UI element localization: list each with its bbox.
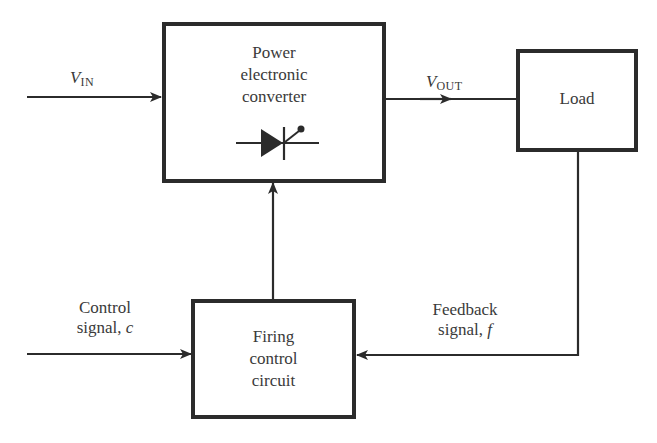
control-signal-var: c (126, 318, 134, 337)
converter-label: Power electronic converter (164, 42, 384, 108)
vout-label: VOUT (426, 72, 463, 96)
control-signal-label: Control signal, c (60, 298, 150, 338)
converter-label-line2: electronic (164, 64, 384, 86)
converter-label-line3: converter (164, 86, 384, 108)
thyristor-icon (236, 126, 319, 161)
feedback-signal-line2: signal, (438, 320, 487, 339)
feedback-signal-var: f (487, 320, 492, 339)
load-label: Load (518, 88, 636, 110)
converter-label-line1: Power (164, 42, 384, 64)
firing-label-line2: control (193, 348, 354, 370)
vin-sub: IN (80, 75, 94, 89)
firing-label-line3: circuit (193, 370, 354, 392)
vin-label: VIN (70, 68, 94, 92)
control-signal-line1: Control (60, 298, 150, 318)
feedback-signal-label: Feedback signal, f (415, 300, 515, 340)
control-signal-line2: signal, (77, 318, 126, 337)
firing-label: Firing control circuit (193, 326, 354, 392)
firing-label-line1: Firing (193, 326, 354, 348)
vout-sub: OUT (436, 79, 462, 93)
vin-var: V (70, 68, 80, 87)
vout-var: V (426, 72, 436, 91)
feedback-signal-line1: Feedback (415, 300, 515, 320)
